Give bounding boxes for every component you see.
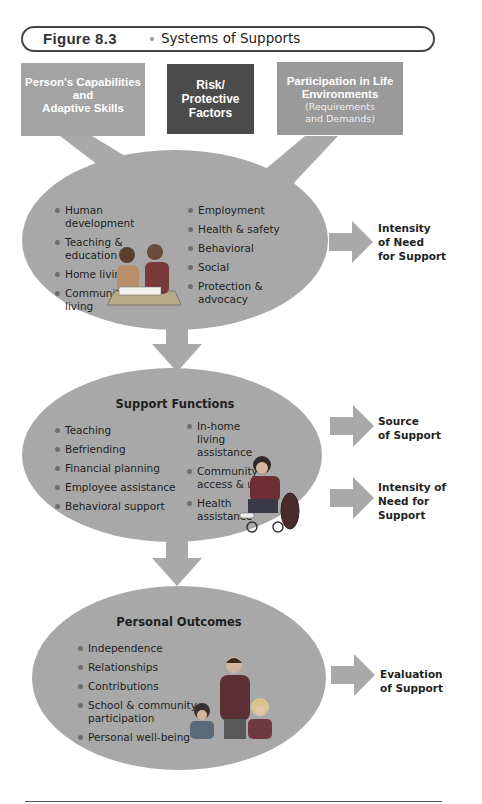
output-source-of-support: Source of Support bbox=[378, 414, 441, 442]
output-evaluation-of-support: Evaluation of Support bbox=[380, 667, 443, 695]
label-line: for Support bbox=[378, 249, 446, 263]
list-item: Behavioral bbox=[188, 242, 288, 255]
list-item: Personal well-being bbox=[78, 731, 198, 744]
output-intensity-of-need-2: Intensity of Need for Support bbox=[378, 480, 446, 522]
box-risk-protective-factors: Risk/ Protective Factors bbox=[167, 64, 254, 134]
box-line: Participation in Life bbox=[277, 75, 403, 88]
box-line: Risk/ bbox=[167, 78, 254, 92]
label-line: of Need bbox=[378, 235, 446, 249]
box-subline: and Demands) bbox=[277, 113, 403, 125]
box-line: Factors bbox=[167, 106, 254, 120]
box-capabilities-adaptive-skills: Person's Capabilities and Adaptive Skill… bbox=[21, 63, 145, 136]
down-arrow-2 bbox=[152, 536, 202, 586]
adult-with-two-children-illustration bbox=[188, 655, 274, 741]
label-line: Support bbox=[378, 508, 446, 522]
label-line: Intensity of bbox=[378, 480, 446, 494]
list-item: Health & safety bbox=[188, 223, 288, 236]
list-item: School & community participation bbox=[78, 699, 198, 725]
right-arrow-intensity-1 bbox=[329, 221, 373, 263]
list-item: Employment bbox=[188, 204, 288, 217]
label-line: Source bbox=[378, 414, 441, 428]
output-intensity-of-need-1: Intensity of Need for Support bbox=[378, 221, 446, 263]
list-item: Social bbox=[188, 261, 288, 274]
label-line: of Support bbox=[380, 681, 443, 695]
label-line: Evaluation bbox=[380, 667, 443, 681]
support-areas-right-list: Employment Health & safety Behavioral So… bbox=[188, 204, 288, 312]
list-item: Contributions bbox=[78, 680, 198, 693]
teacher-and-child-reading-illustration bbox=[105, 243, 185, 309]
label-line: Need for bbox=[378, 494, 446, 508]
right-arrow-source bbox=[330, 405, 374, 447]
child-in-wheelchair-illustration bbox=[238, 455, 304, 535]
label-line: Intensity bbox=[378, 221, 446, 235]
list-item: Financial planning bbox=[55, 462, 185, 475]
box-line: and bbox=[21, 89, 145, 102]
list-item: Employee assistance bbox=[55, 481, 185, 494]
list-item: Teaching bbox=[55, 424, 185, 437]
personal-outcomes-list: Independence Relationships Contributions… bbox=[78, 642, 198, 750]
support-functions-left-list: Teaching Befriending Financial planning … bbox=[55, 424, 185, 519]
box-line: Adaptive Skills bbox=[21, 102, 145, 115]
right-arrow-evaluation bbox=[331, 654, 375, 696]
list-item: Relationships bbox=[78, 661, 198, 674]
box-subline: (Requirements bbox=[277, 101, 403, 113]
right-arrow-intensity-2 bbox=[330, 477, 374, 519]
personal-outcomes-heading: Personal Outcomes bbox=[104, 615, 254, 629]
list-item: Behavioral support bbox=[55, 500, 185, 513]
list-item: Independence bbox=[78, 642, 198, 655]
list-item: In-home living assistance bbox=[187, 420, 267, 459]
support-functions-heading: Support Functions bbox=[100, 397, 250, 411]
list-item: Human development bbox=[55, 204, 165, 230]
list-item: Befriending bbox=[55, 443, 185, 456]
list-item: Protection & advocacy bbox=[188, 280, 273, 306]
bottom-divider bbox=[25, 801, 442, 802]
box-participation-life-environments: Participation in Life Environments (Requ… bbox=[277, 62, 403, 135]
label-line: of Support bbox=[378, 428, 441, 442]
box-line: Environments bbox=[277, 88, 403, 101]
box-line: Protective bbox=[167, 92, 254, 106]
box-line: Person's Capabilities bbox=[21, 76, 145, 89]
